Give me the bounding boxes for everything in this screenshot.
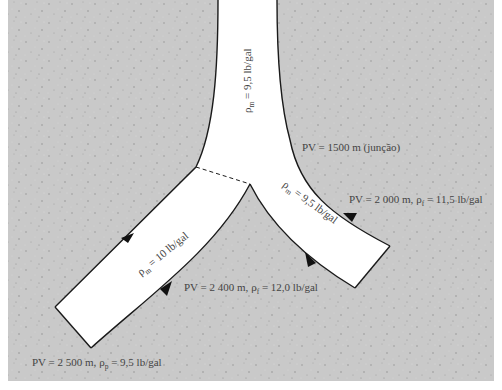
label-junction-depth: PV = 1500 m (junção) xyxy=(302,141,401,154)
multilateral-well-diagram: ρm = 9,5 lb/gal PV = 1500 m (junção) ρm … xyxy=(0,0,502,390)
